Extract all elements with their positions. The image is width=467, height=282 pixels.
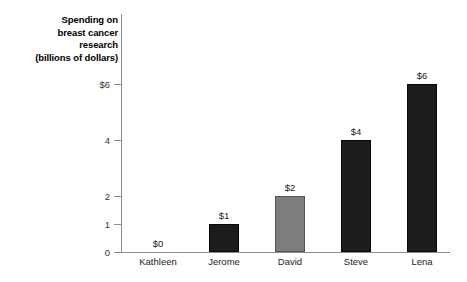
bar-steve[interactable] xyxy=(341,140,371,252)
y-tick-label-6: $6 xyxy=(78,79,110,90)
bar-value-jerome: $1 xyxy=(191,210,257,221)
bar-slot: $6 xyxy=(389,14,455,252)
bar-slot: $0 xyxy=(125,14,191,252)
bar-lena[interactable] xyxy=(407,84,437,252)
y-tick-label-0: 0 xyxy=(78,247,110,258)
bar-value-kathleen: $0 xyxy=(125,238,191,249)
bar-value-david: $2 xyxy=(257,182,323,193)
x-axis-line xyxy=(121,252,450,253)
y-axis-title: Spending on breast cancer research (bill… xyxy=(14,14,118,64)
y-tick-0 xyxy=(114,252,122,253)
category-label-steve: Steve xyxy=(323,256,389,267)
bar-slot: $2 xyxy=(257,14,323,252)
category-label-jerome: Jerome xyxy=(191,256,257,267)
category-label-kathleen: Kathleen xyxy=(125,256,191,267)
bar-slot: $1 xyxy=(191,14,257,252)
y-tick-label-2: 2 xyxy=(78,191,110,202)
category-label-david: David xyxy=(257,256,323,267)
bar-slot: $4 xyxy=(323,14,389,252)
plot-area: $0$1$2$4$6 xyxy=(121,14,450,252)
bar-value-lena: $6 xyxy=(389,70,455,81)
bar-value-steve: $4 xyxy=(323,126,389,137)
y-tick-label-4: 4 xyxy=(78,135,110,146)
y-tick-label-1: 1 xyxy=(78,219,110,230)
bar-chart: Spending on breast cancer research (bill… xyxy=(0,0,467,282)
bar-jerome[interactable] xyxy=(209,224,239,252)
category-label-lena: Lena xyxy=(389,256,455,267)
bar-david[interactable] xyxy=(275,196,305,252)
